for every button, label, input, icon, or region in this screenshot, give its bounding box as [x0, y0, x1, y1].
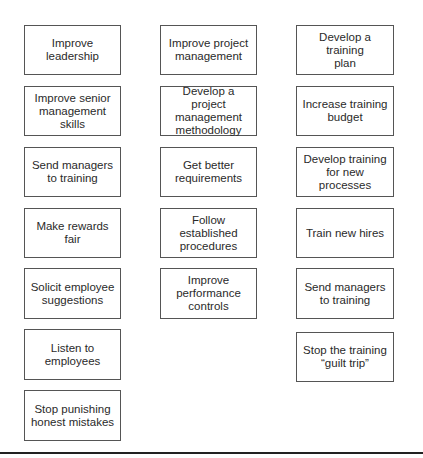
idea-card-develop-project-management-methodology: Develop a project management methodology: [160, 86, 257, 136]
idea-card-stop-punishing-honest-mistakes: Stop punishing honest mistakes: [24, 390, 121, 441]
idea-card-develop-training-for-new-processes: Develop training for new processes: [296, 147, 394, 197]
idea-card-send-managers-to-training: Send managers to training: [24, 147, 121, 197]
idea-card-listen-to-employees: Listen to employees: [24, 329, 121, 380]
idea-card-solicit-employee-suggestions: Solicit employee suggestions: [24, 268, 121, 319]
idea-card-improve-project-management: Improve project management: [160, 25, 257, 75]
idea-card-improve-leadership: Improve leadership: [24, 25, 121, 75]
idea-card-send-managers-to-training-2: Send managers to training: [296, 268, 394, 319]
idea-card-make-rewards-fair: Make rewards fair: [24, 208, 121, 258]
idea-card-follow-established-procedures: Follow established procedures: [160, 208, 257, 258]
idea-card-get-better-requirements: Get better requirements: [160, 147, 257, 197]
idea-card-increase-training-budget: Increase training budget: [296, 86, 394, 136]
idea-card-improve-performance-controls: Improve performance controls: [160, 268, 257, 319]
idea-card-train-new-hires: Train new hires: [296, 208, 394, 258]
idea-card-improve-senior-management-skills: Improve senior management skills: [24, 86, 121, 136]
idea-card-develop-training-plan: Develop a training plan: [296, 25, 394, 75]
idea-card-stop-training-guilt-trip: Stop the training “guilt trip”: [296, 332, 394, 382]
bottom-divider: [0, 452, 423, 454]
